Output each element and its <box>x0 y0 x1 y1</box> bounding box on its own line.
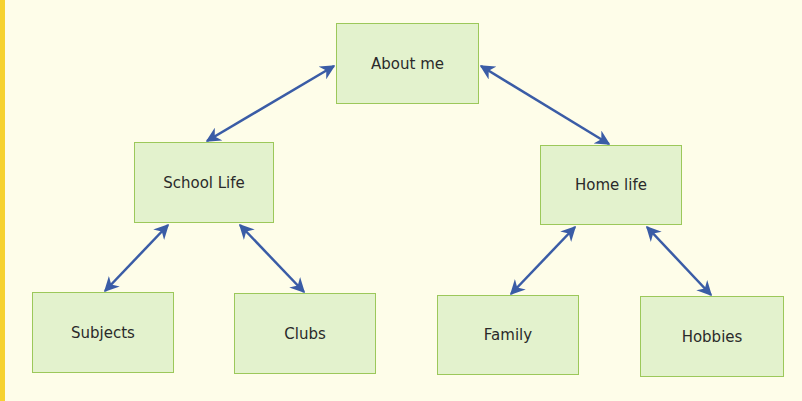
arrow-school-subjects <box>105 225 168 291</box>
node-about-me: About me <box>336 23 479 104</box>
node-label: Home life <box>575 176 647 194</box>
node-label: Family <box>484 326 532 344</box>
arrow-about-school <box>207 66 334 141</box>
node-label: About me <box>371 55 444 73</box>
arrow-home-family <box>511 227 575 294</box>
node-subjects: Subjects <box>32 292 174 373</box>
node-hobbies: Hobbies <box>640 296 784 377</box>
arrow-about-home <box>481 66 609 144</box>
node-family: Family <box>437 295 579 375</box>
arrow-home-hobbies <box>647 227 711 295</box>
node-label: Hobbies <box>682 328 743 346</box>
node-label: Subjects <box>71 324 135 342</box>
node-label: School Life <box>163 174 245 192</box>
node-clubs: Clubs <box>234 293 376 374</box>
node-label: Clubs <box>284 325 325 343</box>
node-school-life: School Life <box>134 142 274 223</box>
node-home-life: Home life <box>540 145 682 225</box>
arrow-school-clubs <box>240 225 304 292</box>
